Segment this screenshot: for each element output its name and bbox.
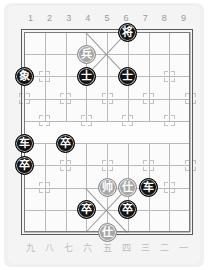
column-label-1: 1 [24, 11, 37, 25]
piece-label: 兵 [81, 48, 92, 59]
column-label-5: 五 [101, 241, 114, 255]
column-label-4: 4 [81, 11, 94, 25]
column-label-5: 5 [101, 11, 114, 25]
piece-chariot-black-1[interactable]: 车 [15, 134, 34, 153]
column-label-7: 三 [139, 241, 152, 255]
piece-advisor-black-1[interactable]: 士 [77, 67, 96, 86]
column-label-3: 3 [62, 11, 75, 25]
piece-label: 士 [122, 70, 133, 81]
grid-line-col-1 [24, 32, 25, 232]
piece-label: 帅 [102, 182, 113, 193]
grid-line-col-3-bottom [66, 143, 67, 232]
piece-label: 卒 [60, 137, 71, 148]
column-label-2: 八 [43, 241, 56, 255]
river-band [24, 122, 190, 143]
piece-pawn-black-2[interactable]: 卒 [15, 156, 34, 175]
piece-advisor-gray-2[interactable]: 仕 [98, 223, 117, 242]
column-labels-bottom: 九八七六五四三二一 [24, 241, 190, 255]
grid-line-col-5-top [107, 32, 108, 121]
column-label-7: 7 [139, 11, 152, 25]
piece-chariot-black-2[interactable]: 车 [139, 178, 158, 197]
grid-line-row-4 [24, 121, 190, 122]
xiangqi-board[interactable]: 将兵象士士车卒卒帅仕车卒卒仕 [24, 32, 190, 232]
grid-line-col-2-bottom [45, 143, 46, 232]
piece-label: 车 [143, 182, 154, 193]
column-label-9: 一 [177, 241, 190, 255]
piece-pawn-black-4[interactable]: 卒 [118, 200, 137, 219]
grid-line-col-8-top [169, 32, 170, 121]
column-label-6: 四 [120, 241, 133, 255]
piece-general-black[interactable]: 将 [118, 23, 137, 42]
grid-line-col-8-bottom [169, 143, 170, 232]
piece-advisor-black-2[interactable]: 士 [118, 67, 137, 86]
piece-pawn-black-1[interactable]: 卒 [56, 134, 75, 153]
piece-marshal-gray[interactable]: 帅 [98, 178, 117, 197]
grid-line-col-3-top [66, 32, 67, 121]
piece-label: 仕 [102, 226, 113, 237]
piece-label: 士 [81, 70, 92, 81]
grid-line-col-2-top [45, 32, 46, 121]
piece-label: 车 [19, 137, 30, 148]
column-label-9: 9 [177, 11, 190, 25]
piece-label: 卒 [122, 204, 133, 215]
column-label-8: 二 [158, 241, 171, 255]
piece-label: 卒 [19, 159, 30, 170]
column-label-2: 2 [43, 11, 56, 25]
grid-line-col-9 [190, 32, 191, 232]
piece-advisor-gray-1[interactable]: 仕 [118, 178, 137, 197]
piece-label: 仕 [122, 182, 133, 193]
column-label-1: 九 [24, 241, 37, 255]
piece-label: 卒 [81, 204, 92, 215]
column-labels-top: 123456789 [24, 11, 190, 25]
column-label-3: 七 [62, 241, 75, 255]
piece-elephant-black[interactable]: 象 [15, 67, 34, 86]
column-label-8: 8 [158, 11, 171, 25]
screenshot-root: 123456789 将兵象士士车卒卒帅仕车卒卒仕 九八七六五四三二一 [0, 0, 208, 270]
grid-line-col-7-top [149, 32, 150, 121]
piece-label: 象 [19, 70, 30, 81]
piece-label: 将 [122, 26, 133, 37]
column-label-4: 六 [81, 241, 94, 255]
piece-pawn-black-3[interactable]: 卒 [77, 200, 96, 219]
piece-pawn-gray-1[interactable]: 兵 [77, 45, 96, 64]
